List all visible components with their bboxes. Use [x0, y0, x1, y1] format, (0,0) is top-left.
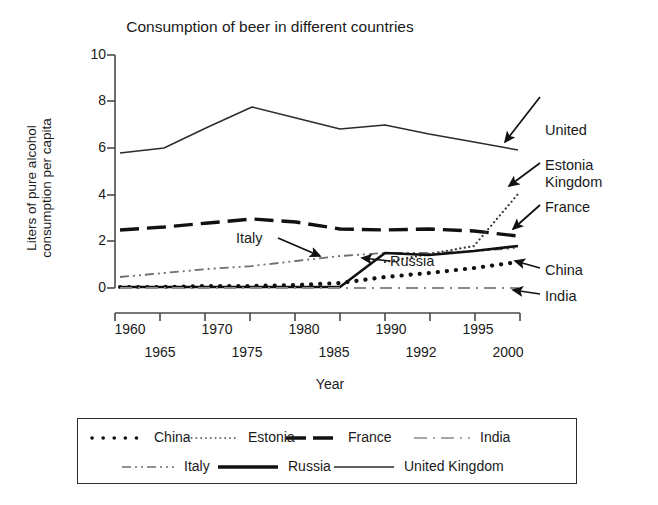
series-line-france: [120, 219, 518, 236]
annotation-arrow-france: [513, 205, 540, 229]
series-line-russia: [120, 246, 518, 287]
series-line-china: [120, 262, 518, 287]
annotation-arrow-estonia: [509, 163, 540, 186]
series-line-united-kingdom: [120, 107, 518, 153]
annotation-arrow-india: [513, 290, 540, 294]
x-axis-ticks: [115, 313, 520, 321]
annotation-arrow-italy: [278, 238, 320, 256]
chart-figure: Consumption of beer in different countri…: [0, 0, 658, 505]
annotation-arrow-united-kingdom: [505, 97, 540, 142]
annotation-arrow-china: [515, 261, 540, 268]
plot-canvas: [0, 0, 658, 505]
